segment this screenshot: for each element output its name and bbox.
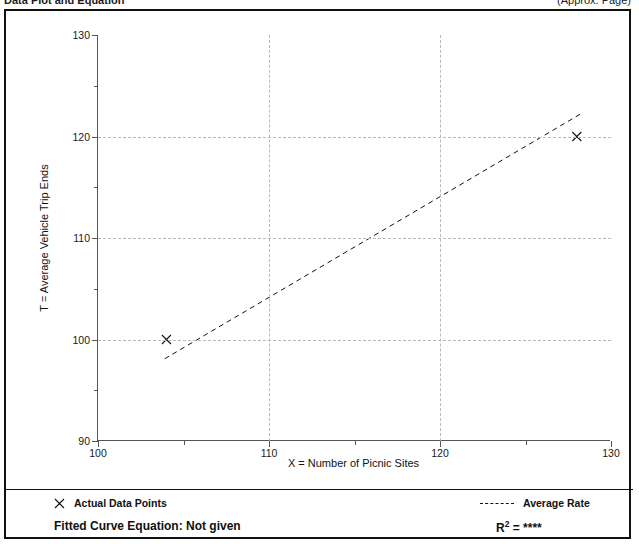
- x-tick-minor: [526, 441, 527, 445]
- fitted-curve-equation: Fitted Curve Equation: Not given: [54, 519, 241, 533]
- y-tick-major: [92, 340, 98, 341]
- x-marker-icon: [54, 498, 65, 509]
- data-point-marker: [162, 335, 171, 344]
- fitted-curve-equation-value: Not given: [186, 519, 241, 533]
- r-squared-label: R: [496, 521, 505, 535]
- legend-item-average-rate: Average Rate: [480, 497, 590, 509]
- y-tick-major: [92, 238, 98, 239]
- x-tick-label: 130: [602, 447, 620, 459]
- figure-card: T = Average Vehicle Trip Ends X = Number…: [4, 9, 631, 539]
- y-tick-label: 100: [72, 334, 90, 346]
- page-header: Data Plot and Equation (Approx. Page): [0, 0, 639, 8]
- data-point-marker: [572, 132, 581, 141]
- legend-label-actual-data-points: Actual Data Points: [74, 497, 167, 509]
- r-squared-equals: =: [513, 521, 520, 535]
- x-tick-minor: [184, 441, 185, 445]
- trend-line-average-rate: [165, 113, 582, 359]
- chart-plot-region: T = Average Vehicle Trip Ends X = Number…: [6, 11, 633, 489]
- legend-item-actual-data-points: Actual Data Points: [54, 497, 167, 509]
- axes-frame: 90100110120130100110120130: [97, 35, 610, 441]
- figure-footer: Fitted Curve Equation: Not given R2 = **…: [6, 519, 633, 541]
- y-tick-label: 110: [73, 232, 90, 244]
- y-tick-label: 90: [78, 435, 90, 447]
- y-tick-minor: [94, 289, 98, 290]
- legend-divider: [6, 489, 633, 490]
- x-tick-label: 110: [261, 447, 278, 459]
- data-series-layer: [98, 35, 611, 441]
- y-tick-minor: [94, 187, 98, 188]
- y-tick-major: [92, 35, 98, 36]
- page-header-title: Data Plot and Equation: [4, 0, 124, 6]
- x-axis-title: X = Number of Picnic Sites: [97, 457, 610, 469]
- y-tick-label: 130: [72, 29, 90, 41]
- page-header-meta: (Approx. Page): [557, 0, 631, 6]
- x-tick-label: 120: [431, 447, 449, 459]
- r-squared-exponent: 2: [505, 519, 510, 529]
- y-tick-major: [92, 137, 98, 138]
- legend-label-average-rate: Average Rate: [523, 497, 590, 509]
- x-tick-minor: [355, 441, 356, 445]
- x-tick-label: 100: [89, 447, 107, 459]
- r-squared-stars: ****: [523, 521, 542, 535]
- y-tick-label: 120: [72, 131, 90, 143]
- y-tick-minor: [94, 86, 98, 87]
- r-squared-value: R2 = ****: [496, 519, 542, 535]
- dashed-line-swatch-icon: [480, 503, 514, 504]
- y-axis-title: T = Average Vehicle Trip Ends: [36, 35, 52, 441]
- fitted-curve-equation-label: Fitted Curve Equation:: [54, 519, 183, 533]
- y-tick-minor: [94, 390, 98, 391]
